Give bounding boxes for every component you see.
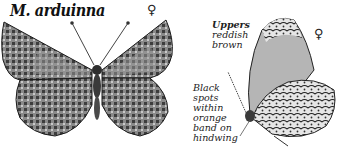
butterfly-underside-illustration — [0, 0, 339, 148]
